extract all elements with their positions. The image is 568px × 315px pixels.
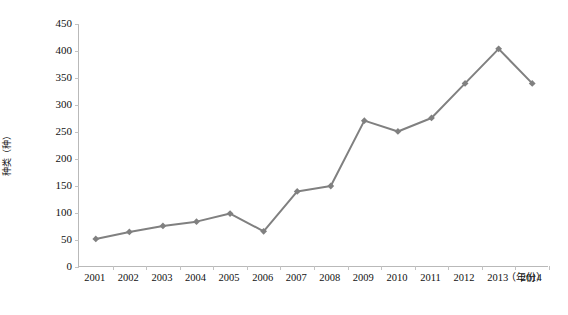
y-tick-mark bbox=[75, 78, 79, 79]
y-axis-tick-labels: 050100150200250300350400450 bbox=[36, 0, 72, 315]
x-tick-label: 2011 bbox=[420, 272, 441, 284]
x-tick-mark bbox=[180, 266, 181, 270]
x-tick-mark bbox=[549, 266, 550, 270]
data-point-marker bbox=[361, 117, 368, 124]
y-tick-label: 400 bbox=[36, 45, 72, 56]
x-tick-label: 2010 bbox=[386, 272, 407, 284]
y-tick-label: 0 bbox=[36, 261, 72, 272]
x-tick-label: 2013 bbox=[487, 272, 508, 284]
x-tick-label: 2008 bbox=[319, 272, 340, 284]
x-tick-label: 2012 bbox=[454, 272, 475, 284]
y-tick-label: 300 bbox=[36, 99, 72, 110]
y-tick-label: 250 bbox=[36, 126, 72, 137]
x-tick-mark bbox=[482, 266, 483, 270]
series-polyline bbox=[96, 49, 532, 239]
x-tick-mark bbox=[113, 266, 114, 270]
y-tick-mark bbox=[75, 213, 79, 214]
y-tick-mark bbox=[75, 186, 79, 187]
x-tick-mark bbox=[515, 266, 516, 270]
x-tick-label: 2003 bbox=[151, 272, 172, 284]
y-tick-mark bbox=[75, 240, 79, 241]
x-tick-mark bbox=[314, 266, 315, 270]
x-tick-label: 2001 bbox=[84, 272, 105, 284]
y-tick-label: 50 bbox=[36, 234, 72, 245]
y-tick-mark bbox=[75, 105, 79, 106]
data-point-marker bbox=[160, 223, 167, 230]
line-chart: 种类（种） 050100150200250300350400450 200120… bbox=[0, 0, 568, 315]
y-tick-label: 200 bbox=[36, 153, 72, 164]
x-tick-mark bbox=[247, 266, 248, 270]
x-tick-mark bbox=[213, 266, 214, 270]
y-tick-label: 450 bbox=[36, 18, 72, 29]
x-axis-unit-label: （年份） bbox=[506, 272, 546, 284]
y-tick-label: 100 bbox=[36, 207, 72, 218]
data-point-marker bbox=[193, 218, 200, 225]
x-tick-mark bbox=[348, 266, 349, 270]
series-line-species bbox=[79, 24, 549, 267]
data-point-marker bbox=[92, 236, 99, 243]
x-axis-tick-labels: 2001200220032004200520062007200820092010… bbox=[78, 272, 548, 288]
x-tick-label: 2002 bbox=[118, 272, 139, 284]
y-tick-mark bbox=[75, 267, 79, 268]
data-point-marker bbox=[395, 128, 402, 135]
y-tick-label: 350 bbox=[36, 72, 72, 83]
x-tick-label: 2005 bbox=[219, 272, 240, 284]
x-tick-mark bbox=[280, 266, 281, 270]
x-tick-label: 2007 bbox=[286, 272, 307, 284]
x-tick-mark bbox=[415, 266, 416, 270]
x-tick-label: 2009 bbox=[353, 272, 374, 284]
x-tick-mark bbox=[448, 266, 449, 270]
y-tick-label: 150 bbox=[36, 180, 72, 191]
data-point-marker bbox=[327, 183, 334, 190]
y-tick-mark bbox=[75, 132, 79, 133]
plot-area bbox=[78, 24, 548, 267]
data-point-marker bbox=[126, 229, 133, 236]
y-tick-mark bbox=[75, 24, 79, 25]
x-tick-mark bbox=[146, 266, 147, 270]
x-tick-label: 2006 bbox=[252, 272, 273, 284]
y-axis-title: 种类（种） bbox=[2, 108, 13, 198]
y-tick-mark bbox=[75, 159, 79, 160]
x-tick-mark bbox=[381, 266, 382, 270]
x-tick-label: 2004 bbox=[185, 272, 206, 284]
y-tick-mark bbox=[75, 51, 79, 52]
